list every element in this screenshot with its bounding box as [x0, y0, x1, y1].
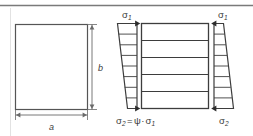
sigma-subscript: 1: [128, 14, 132, 21]
sigma-subscript: 2: [121, 120, 126, 127]
equals-sign: =: [127, 115, 133, 126]
sigma-subscript: 1: [151, 120, 155, 127]
stress-plate: [142, 24, 209, 109]
multiplication-dot: ·: [141, 115, 144, 126]
figure-root: b a: [0, 0, 253, 136]
plate-rectangle: [16, 25, 88, 110]
sigma-subscript: 1: [224, 14, 228, 21]
figure-canvas: b a: [0, 0, 253, 136]
sigma-subscript: 2: [224, 120, 229, 127]
stress-plate-outline: [142, 24, 209, 109]
dimension-label-b: b: [98, 63, 103, 73]
psi-glyph: ψ: [134, 115, 141, 126]
dimension-label-a: a: [49, 122, 54, 132]
